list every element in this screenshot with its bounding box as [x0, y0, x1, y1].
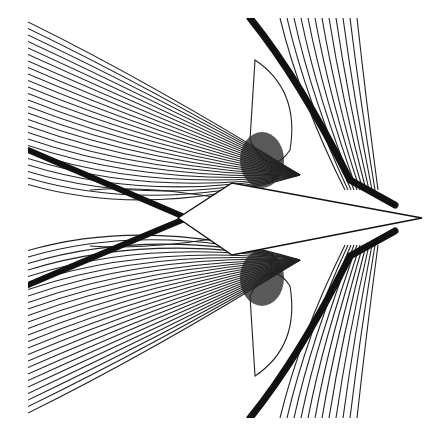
contour-plot [0, 0, 438, 435]
contour-svg [0, 0, 438, 435]
wedge-body [178, 183, 422, 255]
